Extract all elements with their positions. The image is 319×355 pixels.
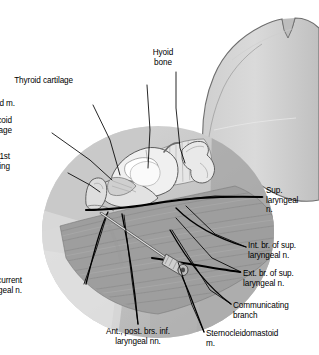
label-sternocleidomastoid-m: Sternocleidomastoid m. — [206, 329, 278, 348]
label-int-br-sup-laryngeal-n: Int. br. of sup. laryngeal n. — [248, 241, 296, 260]
label-thyroid-cartilage: Thyroid cartilage — [14, 76, 73, 86]
label-hyoid-bone: Hyoid bone — [153, 48, 173, 67]
laryngeal-inlet-highlight — [130, 162, 160, 187]
label-first-tracheal-ring: 1st tracheal ring — [0, 152, 10, 171]
anatomy-figure: Hyoid boneThyroid cartilageCricothyroid … — [0, 0, 319, 355]
label-cricothyroid-muscle: Cricothyroid m. — [0, 99, 15, 109]
label-ant-post-brs-inf-laryngeal-nn: Ant., post. brs. inf. laryngeal nn. — [106, 327, 170, 346]
label-cricoid-cartilage: Cricoid cartilage — [0, 116, 12, 135]
label-sup-laryngeal-n: Sup. laryngeal n. — [266, 186, 298, 215]
label-recurrent-laryngeal-n: Recurrent laryngeal n. — [0, 276, 22, 295]
label-communicating-branch: Communicating branch — [233, 301, 289, 320]
label-ext-br-sup-laryngeal-n: Ext. br. of sup. laryngeal n. — [243, 269, 294, 288]
